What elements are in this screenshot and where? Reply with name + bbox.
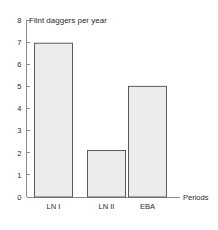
y-tick-label: 4 bbox=[17, 104, 21, 113]
y-tick-group: 012345678 bbox=[17, 16, 30, 202]
y-tick-label: 6 bbox=[17, 60, 21, 69]
category-label: LN II bbox=[99, 202, 115, 211]
bar bbox=[129, 86, 167, 197]
chart-title: Flint daggers per year bbox=[29, 16, 107, 25]
y-tick-label: 1 bbox=[17, 171, 21, 180]
x-axis-title: Periods bbox=[183, 193, 209, 202]
bars-group bbox=[35, 43, 167, 197]
category-label: LN I bbox=[47, 202, 61, 211]
category-label: EBA bbox=[140, 202, 155, 211]
y-tick-label: 5 bbox=[17, 82, 21, 91]
y-tick-label: 3 bbox=[17, 126, 21, 135]
y-tick-label: 8 bbox=[17, 16, 21, 25]
bar-chart: Flint daggers per year 012345678 Periods… bbox=[0, 0, 218, 230]
y-tick-label: 2 bbox=[17, 149, 21, 158]
bar bbox=[88, 151, 126, 197]
category-labels-group: LN ILN IIEBA bbox=[47, 202, 155, 211]
bar bbox=[35, 43, 73, 197]
y-tick-label: 0 bbox=[17, 193, 21, 202]
chart-canvas: Flint daggers per year 012345678 Periods… bbox=[0, 0, 218, 230]
y-axis: 012345678 bbox=[17, 16, 30, 202]
chart-title-group: Flint daggers per year bbox=[29, 16, 107, 25]
y-tick-label: 7 bbox=[17, 38, 21, 47]
